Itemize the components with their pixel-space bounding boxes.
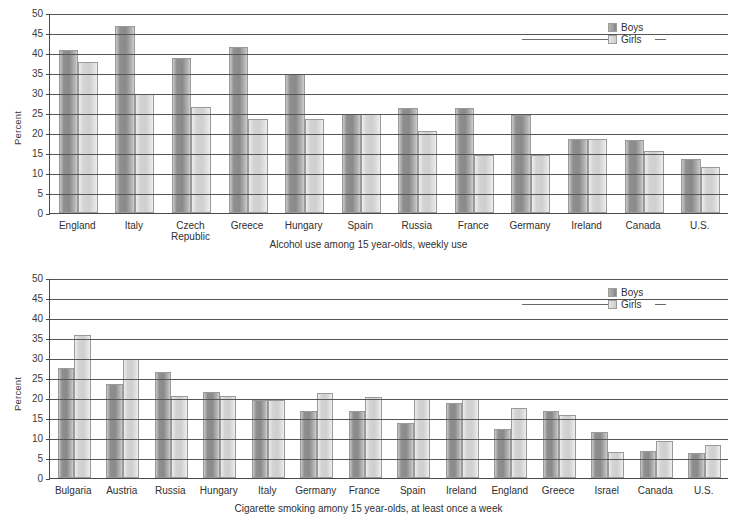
gridline (50, 174, 728, 175)
bar-girls (531, 155, 551, 213)
legend-swatch-girls-icon (608, 300, 617, 309)
y-axis-tick-mark (46, 379, 50, 380)
x-axis-category-label: Bulgaria (49, 485, 98, 496)
y-axis-tick-label: 15 (25, 414, 43, 424)
bar-boys (285, 74, 305, 213)
gridline (50, 459, 728, 460)
gridline (50, 319, 728, 320)
bar-girls (305, 119, 325, 213)
gridline (50, 359, 728, 360)
bar-boys (543, 411, 560, 478)
y-axis-tick-label: 10 (25, 434, 43, 444)
bar-girls (361, 114, 381, 213)
bar-boys (446, 403, 463, 478)
x-axis-category-label: France (340, 485, 389, 496)
x-axis-category-label: Austria (98, 485, 147, 496)
bar-girls (317, 393, 334, 478)
legend-item-girls: Girls (608, 34, 642, 45)
y-axis-tick-label: 50 (25, 9, 43, 19)
y-axis-tick-mark (46, 114, 50, 115)
y-axis-tick-mark (46, 194, 50, 195)
gridline (50, 194, 728, 195)
y-axis-tick-mark (46, 399, 50, 400)
bar-girls (644, 151, 664, 213)
legend-swatch-boys-icon (608, 23, 617, 32)
y-axis-tick-label: 15 (25, 149, 43, 159)
x-axis-category-label: Greece (534, 485, 583, 496)
bar-girls (365, 397, 382, 478)
y-axis-tick-label: 25 (25, 109, 43, 119)
legend-connector-line (522, 39, 608, 40)
chart-panel-cigarette: Percent 05101520253035404550 BulgariaAus… (0, 261, 737, 523)
x-axis-category-label: Canada (615, 220, 672, 231)
bar-boys (172, 58, 192, 213)
y-axis-tick-mark (46, 279, 50, 280)
y-axis-tick-label: 35 (25, 69, 43, 79)
bar-boys (58, 368, 75, 478)
chart-caption-alcohol: Alcohol use among 15 year-olds, weekly u… (0, 239, 737, 250)
y-axis-tick-label: 0 (25, 474, 43, 484)
gridline (50, 14, 728, 15)
x-axis-category-label: Hungary (275, 220, 332, 231)
y-axis-tick-label: 5 (25, 189, 43, 199)
y-axis-tick-label: 50 (25, 274, 43, 284)
bar-girls (418, 131, 438, 213)
x-axis-category-label: Ireland (558, 220, 615, 231)
y-axis-tick-mark (46, 214, 50, 215)
bar-boys (349, 411, 366, 478)
y-axis-tick-label: 40 (25, 49, 43, 59)
y-axis-tick-mark (46, 154, 50, 155)
y-axis-tick-mark (46, 54, 50, 55)
x-axis-category-label: Italy (106, 220, 163, 231)
y-axis-tick-label: 20 (25, 394, 43, 404)
x-axis-category-label: England (49, 220, 106, 231)
bar-boys (494, 429, 511, 478)
legend-item-boys: Boys (608, 287, 643, 298)
chart-panel-alcohol: Percent 05101520253035404550 EnglandItal… (0, 0, 737, 261)
legend-item-boys: Boys (608, 22, 643, 33)
gridline (50, 339, 728, 340)
y-axis-tick-label: 25 (25, 374, 43, 384)
legend-item-girls: Girls (608, 299, 642, 310)
bar-girls (588, 139, 608, 213)
bar-girls (220, 396, 237, 478)
y-axis-tick-label: 30 (25, 89, 43, 99)
x-axis-category-label: France (445, 220, 502, 231)
y-axis-tick-mark (46, 319, 50, 320)
y-axis-tick-label: 45 (25, 294, 43, 304)
y-axis-tick-label: 35 (25, 334, 43, 344)
legend-label-boys: Boys (621, 23, 643, 33)
x-axis-category-label: Germany (502, 220, 559, 231)
y-axis-label-alcohol: Percent (12, 111, 23, 145)
x-axis-category-label: U.S. (680, 485, 729, 496)
bar-boys (511, 115, 531, 213)
gridline (50, 94, 728, 95)
y-axis-tick-label: 10 (25, 169, 43, 179)
gridline (50, 134, 728, 135)
gridline (50, 279, 728, 280)
bar-boys (625, 140, 645, 213)
y-axis-tick-mark (46, 74, 50, 75)
legend-swatch-boys-icon (608, 288, 617, 297)
bar-girls (248, 119, 268, 213)
gridline (50, 114, 728, 115)
y-axis-label-cigarette: Percent (12, 377, 23, 411)
x-axis-category-label: England (486, 485, 535, 496)
y-axis-tick-mark (46, 134, 50, 135)
legend-trailing-dash (655, 304, 666, 305)
y-axis-tick-mark (46, 174, 50, 175)
legend-label-girls: Girls (621, 300, 642, 310)
y-axis-tick-mark (46, 419, 50, 420)
bar-boys (155, 372, 172, 478)
gridline (50, 419, 728, 420)
bar-girls (78, 62, 98, 213)
bar-girls (191, 107, 211, 213)
bar-girls (74, 335, 91, 478)
x-axis-category-label: Ireland (437, 485, 486, 496)
y-axis-tick-mark (46, 359, 50, 360)
bar-boys (688, 453, 705, 478)
bar-girls (705, 445, 722, 478)
bar-boys (398, 108, 418, 213)
y-axis-tick-mark (46, 34, 50, 35)
y-axis-tick-mark (46, 299, 50, 300)
